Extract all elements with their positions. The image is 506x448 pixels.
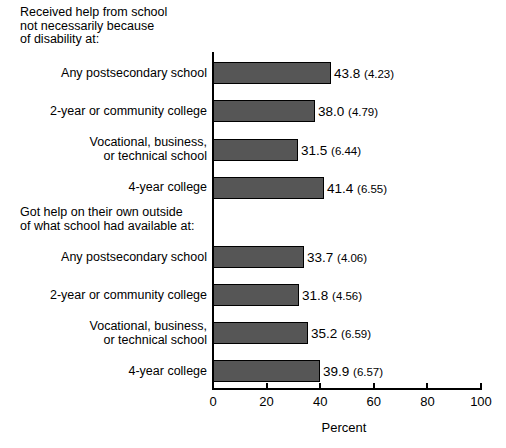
bar-value-g1-any-postsecondary-school: 43.8 (4.23) bbox=[334, 66, 394, 81]
category-label-g2-vocational-business-or-technical-school: Vocational, business, or technical schoo… bbox=[90, 319, 207, 347]
bar-value-standard-error: (6.59) bbox=[341, 328, 371, 340]
x-axis-title-wrap: Percent bbox=[0, 420, 506, 435]
x-tick-20 bbox=[266, 383, 268, 389]
bar-value-number: 39.9 bbox=[323, 364, 349, 379]
bar-g2-any-postsecondary-school bbox=[213, 246, 304, 268]
group-header-received-help-from-school: Received help from school not necessaril… bbox=[20, 6, 167, 47]
bar-value-number: 33.7 bbox=[307, 250, 333, 265]
bar-value-standard-error: (4.79) bbox=[348, 106, 378, 118]
bar-g1-4-year-college bbox=[213, 177, 324, 199]
x-tick-label-40: 40 bbox=[300, 394, 340, 409]
bar-g1-any-postsecondary-school bbox=[213, 62, 331, 84]
group-header-got-help-on-their-own: Got help on their own outside of what sc… bbox=[20, 206, 194, 233]
bar-value-g2-vocational-business-or-technical-school: 35.2 (6.59) bbox=[311, 326, 371, 341]
x-tick-label-20: 20 bbox=[247, 394, 287, 409]
bar-value-number: 43.8 bbox=[334, 66, 360, 81]
x-axis-line bbox=[212, 388, 482, 390]
bar-value-g1-2-year-or-community-college: 38.0 (4.79) bbox=[318, 104, 378, 119]
x-tick-60 bbox=[373, 383, 375, 389]
bar-g1-vocational-business-or-technical-school bbox=[213, 139, 298, 161]
bar-value-standard-error: (4.56) bbox=[332, 290, 362, 302]
x-tick-label-0: 0 bbox=[193, 394, 233, 409]
bar-value-number: 41.4 bbox=[327, 181, 353, 196]
bar-value-g2-2-year-or-community-college: 31.8 (4.56) bbox=[302, 288, 362, 303]
category-label-g2-2-year-or-community-college: 2-year or community college bbox=[50, 288, 207, 302]
bar-g2-4-year-college bbox=[213, 360, 320, 382]
bar-g2-2-year-or-community-college bbox=[213, 284, 299, 306]
bar-value-number: 31.5 bbox=[301, 143, 327, 158]
bar-value-standard-error: (6.57) bbox=[353, 366, 383, 378]
category-label-g1-vocational-business-or-technical-school: Vocational, business, or technical schoo… bbox=[90, 135, 207, 163]
horizontal-bar-chart: Received help from school not necessaril… bbox=[0, 0, 506, 448]
x-tick-label-100: 100 bbox=[461, 394, 501, 409]
bar-g1-2-year-or-community-college bbox=[213, 100, 315, 122]
bar-value-standard-error: (4.23) bbox=[364, 68, 394, 80]
bar-value-standard-error: (6.44) bbox=[331, 145, 361, 157]
category-label-g2-4-year-college: 4-year college bbox=[128, 364, 207, 378]
x-tick-label-60: 60 bbox=[354, 394, 394, 409]
x-tick-label-80: 80 bbox=[407, 394, 447, 409]
bar-value-g2-4-year-college: 39.9 (6.57) bbox=[323, 364, 383, 379]
bar-value-standard-error: (6.55) bbox=[357, 183, 387, 195]
x-axis-title: Percent bbox=[322, 420, 367, 435]
bar-value-number: 35.2 bbox=[311, 326, 337, 341]
category-label-g2-any-postsecondary-school: Any postsecondary school bbox=[61, 250, 207, 264]
x-tick-100 bbox=[480, 383, 482, 389]
x-tick-0 bbox=[212, 383, 214, 389]
category-label-g1-4-year-college: 4-year college bbox=[128, 180, 207, 194]
bar-value-g2-any-postsecondary-school: 33.7 (4.06) bbox=[307, 250, 367, 265]
bar-value-g1-4-year-college: 41.4 (6.55) bbox=[327, 181, 387, 196]
bar-value-standard-error: (4.06) bbox=[337, 252, 367, 264]
x-tick-80 bbox=[426, 383, 428, 389]
bar-value-g1-vocational-business-or-technical-school: 31.5 (6.44) bbox=[301, 143, 361, 158]
bar-g2-vocational-business-or-technical-school bbox=[213, 322, 308, 344]
category-label-g1-any-postsecondary-school: Any postsecondary school bbox=[61, 66, 207, 80]
x-tick-40 bbox=[319, 383, 321, 389]
bar-value-number: 38.0 bbox=[318, 104, 344, 119]
category-label-g1-2-year-or-community-college: 2-year or community college bbox=[50, 104, 207, 118]
bar-value-number: 31.8 bbox=[302, 288, 328, 303]
